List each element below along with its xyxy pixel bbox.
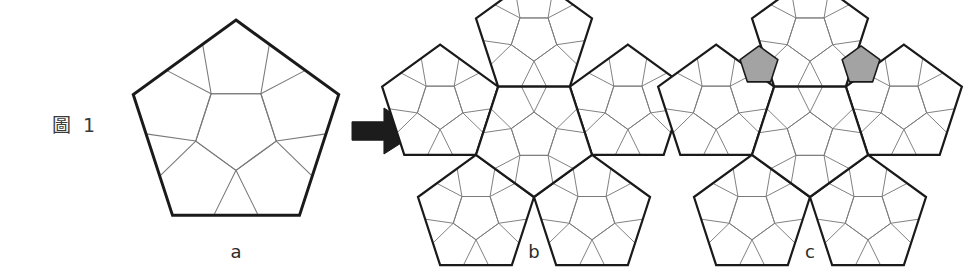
panel-a	[133, 20, 338, 215]
figure-root: 圖 1 a b c	[0, 0, 978, 280]
rosette-petal-3	[476, 0, 592, 87]
panel-c-caption: c	[790, 243, 830, 261]
panel-b	[382, 0, 686, 265]
panel-b-caption: b	[514, 243, 554, 261]
panel-c	[658, 0, 962, 265]
figure-geometry	[0, 0, 978, 280]
panel-a-pentagon	[133, 20, 338, 215]
panel-a-caption: a	[216, 243, 256, 261]
